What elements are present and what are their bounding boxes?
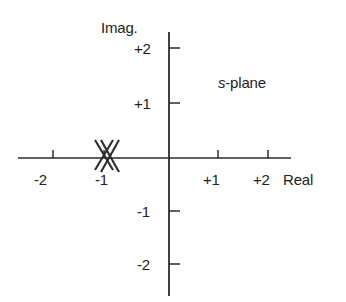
pole-marker-double-x (95, 140, 119, 172)
imag-axis-label: Imag. (101, 20, 138, 35)
real-tick-label-+1: +1 (203, 172, 220, 187)
real-tick-label--2: -2 (34, 172, 47, 187)
plot-canvas (0, 0, 346, 302)
real-tick-label-+2: +2 (253, 172, 270, 187)
imag-tick-label--1: -1 (137, 204, 150, 219)
real-axis-label: Real (283, 172, 313, 187)
imag-tick-label-+1: +1 (134, 96, 151, 111)
real-tick-label--1: -1 (95, 172, 108, 187)
s-plane-pole-zero-plot: Imag. Real s-plane +2 +1 -1 -2 -2 -1 +1 … (0, 0, 346, 302)
imag-tick-label--2: -2 (137, 257, 150, 272)
imag-tick-label-+2: +2 (134, 41, 151, 56)
s-plane-suffix: -plane (225, 74, 266, 91)
s-plane-annotation: s-plane (218, 75, 266, 90)
